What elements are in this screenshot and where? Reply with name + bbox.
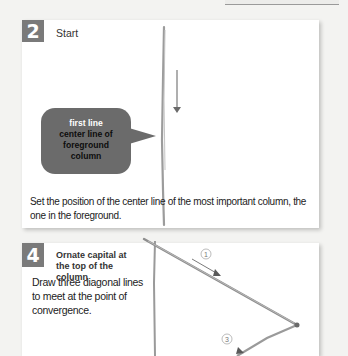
- bubble-text: center line of foreground column: [51, 129, 121, 162]
- arrow-icon: [213, 269, 221, 276]
- step-2-card: 2 Start first line center line of foregr…: [22, 20, 319, 228]
- step-caption: Set the position of the center line of t…: [30, 195, 310, 223]
- step-4-card: 4 Ornate capital at the top of the colum…: [22, 243, 319, 356]
- top-right-bar: [225, 0, 339, 5]
- convergence-point-icon: [295, 323, 300, 328]
- step-caption: Draw three diagonal lines to meet at the…: [32, 275, 150, 317]
- callout-bubble: first line center line of foreground col…: [41, 108, 131, 174]
- marker-1: 1: [204, 251, 208, 258]
- marker-3: 3: [225, 336, 229, 343]
- bubble-first-line: first line: [41, 118, 131, 129]
- arrow-icon: [236, 347, 244, 354]
